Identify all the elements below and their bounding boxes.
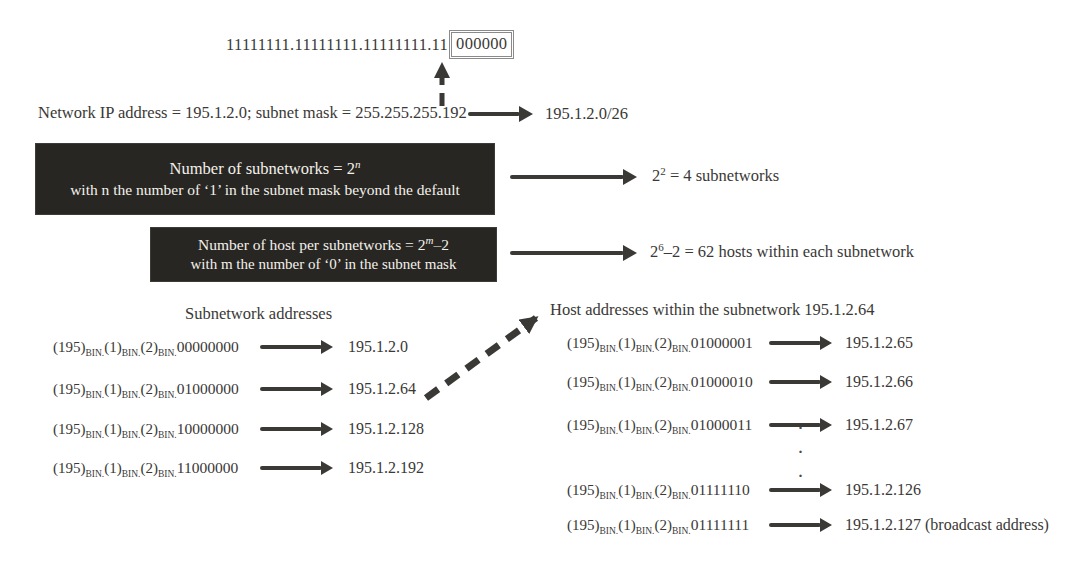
subnet-rule-line2: with n the number of ‘1’ in the subnet m… <box>70 181 460 199</box>
right-arrow <box>260 427 322 431</box>
host-count-rule-box: Number of host per subnetworks = 2m–2 wi… <box>150 227 497 282</box>
host-row: (195)BIN.(1)BIN.(2)BIN.01000011 195.1.2.… <box>567 416 913 434</box>
right-arrow <box>260 387 322 391</box>
subnet-row: (195)BIN.(1)BIN.(2)BIN.11000000 195.1.2.… <box>53 459 424 477</box>
row-binary: (195)BIN.(1)BIN.(2)BIN.01111110 <box>567 481 769 499</box>
row-address: 195.1.2.126 <box>845 481 921 499</box>
subnetwork-addresses-title: Subnetwork addresses <box>185 304 332 324</box>
host-row: (195)BIN.(1)BIN.(2)BIN.01111110 195.1.2.… <box>567 481 921 499</box>
row-address: 195.1.2.66 <box>845 373 913 391</box>
host-row: (195)BIN.(1)BIN.(2)BIN.01000001 195.1.2.… <box>567 334 913 352</box>
dashed-diagonal-arrow-icon <box>418 298 563 406</box>
row-address: 195.1.2.65 <box>845 334 913 352</box>
binary-mask-prefix: 11111111.11111111.11111111.11 <box>226 35 448 55</box>
cidr-result: 195.1.2.0/26 <box>545 104 628 124</box>
subnet-row: (195)BIN.(1)BIN.(2)BIN.00000000 195.1.2.… <box>53 338 408 356</box>
binary-mask-line: 11111111.11111111.11111111.11000000 <box>226 30 514 59</box>
right-arrow <box>468 112 520 116</box>
row-binary: (195)BIN.(1)BIN.(2)BIN.01000010 <box>567 373 769 391</box>
right-arrow <box>769 488 821 492</box>
row-binary: (195)BIN.(1)BIN.(2)BIN.01000001 <box>567 334 769 352</box>
host-row: (195)BIN.(1)BIN.(2)BIN.01000010 195.1.2.… <box>567 373 913 391</box>
row-binary: (195)BIN.(1)BIN.(2)BIN.00000000 <box>53 338 260 356</box>
right-arrow <box>769 380 821 384</box>
host-row: (195)BIN.(1)BIN.(2)BIN.01111111 195.1.2.… <box>567 516 1049 534</box>
binary-mask-boxed-host-bits: 000000 <box>449 30 514 59</box>
subnet-row: (195)BIN.(1)BIN.(2)BIN.01000000 195.1.2.… <box>53 380 416 398</box>
dashed-up-arrow-icon <box>430 54 454 108</box>
row-address: 195.1.2.128 <box>348 420 424 438</box>
right-arrow <box>260 345 322 349</box>
subnetting-diagram: 11111111.11111111.11111111.11000000 Netw… <box>0 0 1088 562</box>
subnet-row: (195)BIN.(1)BIN.(2)BIN.10000000 195.1.2.… <box>53 420 424 438</box>
subnet-count-rule-box: Number of subnetworks = 2n with n the nu… <box>35 143 495 215</box>
host-count-result: 26–2 = 62 hosts within each subnetwork <box>650 242 914 262</box>
row-binary: (195)BIN.(1)BIN.(2)BIN.11000000 <box>53 459 260 477</box>
host-rule-line1: Number of host per subnetworks = 2m–2 <box>198 236 449 254</box>
right-arrow <box>510 251 624 255</box>
right-arrow <box>260 466 322 470</box>
host-addresses-title: Host addresses within the subnetwork 195… <box>550 300 874 320</box>
right-arrow <box>510 175 624 179</box>
row-binary: (195)BIN.(1)BIN.(2)BIN.01000000 <box>53 380 260 398</box>
row-address: 195.1.2.0 <box>348 338 408 356</box>
right-arrow <box>769 341 821 345</box>
host-rule-line2: with m the number of ‘0’ in the subnet m… <box>191 256 457 273</box>
row-address: 195.1.2.127 (broadcast address) <box>845 516 1049 534</box>
row-address: 195.1.2.67 <box>845 416 913 434</box>
row-binary: (195)BIN.(1)BIN.(2)BIN.01000011 <box>567 416 769 434</box>
row-address: 195.1.2.64 <box>348 380 416 398</box>
subnet-count-result: 22 = 4 subnetworks <box>652 166 779 186</box>
right-arrow <box>769 523 821 527</box>
right-arrow <box>769 423 821 427</box>
row-binary: (195)BIN.(1)BIN.(2)BIN.10000000 <box>53 420 260 438</box>
row-binary: (195)BIN.(1)BIN.(2)BIN.01111111 <box>567 516 769 534</box>
subnet-rule-line1: Number of subnetworks = 2n <box>170 159 361 179</box>
network-address-line: Network IP address = 195.1.2.0; subnet m… <box>38 103 467 123</box>
row-address: 195.1.2.192 <box>348 459 424 477</box>
